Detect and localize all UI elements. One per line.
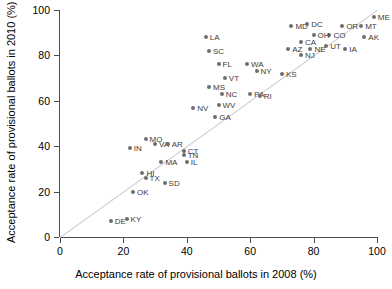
y-tick-label: 100 <box>22 4 50 16</box>
y-tick-mark <box>54 237 59 238</box>
x-tick-label: 100 <box>357 245 392 257</box>
data-point-label: OR <box>346 21 358 30</box>
data-point <box>343 47 347 51</box>
data-point <box>109 219 113 223</box>
data-point-label: ME <box>378 12 390 21</box>
data-point <box>255 69 259 73</box>
data-point <box>182 149 186 153</box>
data-point-label: FL <box>223 60 232 69</box>
data-point-label: CT <box>188 146 199 155</box>
x-tick-label: 80 <box>294 245 334 257</box>
data-point <box>286 47 290 51</box>
data-point <box>163 181 167 185</box>
x-tick-mark <box>377 238 378 243</box>
data-point <box>185 160 189 164</box>
data-point-label: NJ <box>305 51 315 60</box>
x-tick-label: 20 <box>103 245 143 257</box>
data-point-label: NE <box>314 44 325 53</box>
y-tick-label: 60 <box>22 95 50 107</box>
data-point-label: PA <box>254 89 264 98</box>
data-point-label: TX <box>150 173 160 182</box>
data-point-label: VA <box>159 139 169 148</box>
data-point <box>207 85 211 89</box>
data-point <box>125 217 129 221</box>
y-tick-mark <box>54 10 59 11</box>
data-point-label: TN <box>188 151 199 160</box>
data-point-label: SC <box>213 46 224 55</box>
data-point-label: WA <box>251 60 264 69</box>
y-tick-mark <box>54 55 59 56</box>
data-point-label: AR <box>172 139 183 148</box>
data-point <box>312 33 316 37</box>
y-tick-mark <box>54 192 59 193</box>
x-tick-label: 60 <box>230 245 270 257</box>
x-axis-title: Acceptance rate of provisional ballots i… <box>0 268 392 280</box>
data-point <box>128 146 132 150</box>
data-point-label: MA <box>165 158 177 167</box>
data-point <box>191 106 195 110</box>
data-point <box>362 35 366 39</box>
x-tick-mark <box>123 238 124 243</box>
data-point-label: AZ <box>292 44 302 53</box>
x-tick-mark <box>314 238 315 243</box>
y-tick-label: 0 <box>22 231 50 243</box>
data-point-label: KS <box>286 69 297 78</box>
y-tick-mark <box>54 146 59 147</box>
data-point <box>220 92 224 96</box>
scatter-chart: Acceptance rate of provisional ballots i… <box>0 0 392 289</box>
data-point-label: HI <box>146 169 154 178</box>
data-point <box>144 137 148 141</box>
data-point-label: IA <box>349 44 357 53</box>
data-point-label: AK <box>368 33 379 42</box>
data-point <box>144 176 148 180</box>
data-point <box>280 72 284 76</box>
data-point-label: IL <box>191 158 198 167</box>
data-point-label: VT <box>229 74 239 83</box>
data-point <box>182 153 186 157</box>
data-point <box>131 190 135 194</box>
data-point-label: CA <box>305 37 316 46</box>
y-tick-mark <box>54 101 59 102</box>
data-point-label: MT <box>365 21 377 30</box>
data-point-label: LA <box>210 33 220 42</box>
data-point-label: OK <box>137 187 149 196</box>
x-tick-label: 40 <box>167 245 207 257</box>
data-point <box>217 103 221 107</box>
data-point-label: KY <box>131 214 142 223</box>
data-point-label: GA <box>219 112 231 121</box>
data-point <box>159 160 163 164</box>
data-point <box>258 94 262 98</box>
data-point <box>166 142 170 146</box>
x-tick-label: 0 <box>40 245 80 257</box>
data-point <box>204 35 208 39</box>
y-axis-line <box>59 10 60 237</box>
data-point-label: MS <box>213 83 225 92</box>
x-tick-mark <box>60 238 61 243</box>
data-point-label: NY <box>261 67 272 76</box>
identity-reference-line <box>60 10 378 238</box>
x-axis-line <box>60 237 378 238</box>
data-point <box>299 40 303 44</box>
data-point <box>372 15 376 19</box>
y-tick-label: 80 <box>22 49 50 61</box>
data-point-label: NV <box>197 103 208 112</box>
data-point-label: DE <box>115 217 126 226</box>
data-point-label: DC <box>311 19 323 28</box>
data-point <box>289 24 293 28</box>
data-point <box>305 22 309 26</box>
x-tick-mark <box>187 238 188 243</box>
data-point-label: CO <box>333 30 345 39</box>
data-point <box>359 24 363 28</box>
data-point-label: NC <box>226 89 238 98</box>
data-point <box>245 62 249 66</box>
data-point-label: MO <box>150 135 163 144</box>
x-tick-mark <box>250 238 251 243</box>
data-point-label: IN <box>134 144 142 153</box>
data-point <box>207 49 211 53</box>
data-point-label: RI <box>264 92 272 101</box>
data-point <box>327 33 331 37</box>
data-point-label: OH <box>318 30 330 39</box>
data-point-label: MD <box>295 21 307 30</box>
data-point <box>324 44 328 48</box>
data-point <box>299 53 303 57</box>
